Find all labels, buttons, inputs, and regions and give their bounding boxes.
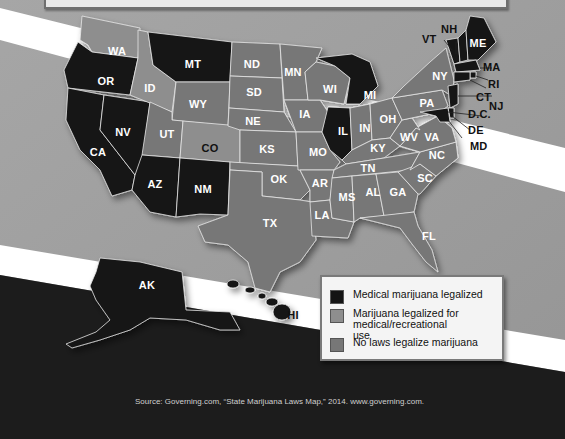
label-NC: NC bbox=[429, 149, 445, 161]
label-TX: TX bbox=[263, 217, 277, 229]
label-KY: KY bbox=[370, 142, 386, 154]
legend-label-medical: Medical marijuana legalized bbox=[353, 289, 493, 300]
label-MT: MT bbox=[185, 58, 201, 70]
legend-swatch-recreational bbox=[330, 309, 344, 323]
label-IL: IL bbox=[338, 125, 348, 137]
map-figure: WA OR CA NV ID MT WY UT CO AZ NM ND SD N… bbox=[0, 0, 565, 439]
label-AL: AL bbox=[365, 186, 380, 198]
legend: Medical marijuana legalized Marijuana le… bbox=[320, 275, 504, 361]
label-OK: OK bbox=[271, 173, 288, 185]
label-RI: RI bbox=[488, 78, 499, 90]
label-ME: ME bbox=[470, 37, 487, 49]
label-NY: NY bbox=[432, 70, 448, 82]
label-AK: AK bbox=[139, 279, 155, 291]
label-PA: PA bbox=[420, 97, 435, 109]
label-DC: D.C. bbox=[468, 108, 491, 120]
label-NH: NH bbox=[441, 23, 457, 35]
legend-label-none: No laws legalize marijuana bbox=[353, 337, 493, 348]
label-ND: ND bbox=[244, 58, 260, 70]
label-MA: MA bbox=[483, 61, 501, 73]
label-SC: SC bbox=[417, 172, 433, 184]
label-MS: MS bbox=[339, 191, 356, 203]
label-ID: ID bbox=[144, 82, 155, 94]
label-NE: NE bbox=[245, 115, 261, 127]
label-CO: CO bbox=[202, 142, 219, 154]
label-VT: VT bbox=[422, 33, 436, 45]
label-OR: OR bbox=[98, 75, 115, 87]
label-NJ: NJ bbox=[489, 100, 503, 112]
label-WA: WA bbox=[108, 45, 126, 57]
label-MI: MI bbox=[364, 89, 377, 101]
legend-item-none: No laws legalize marijuana bbox=[330, 337, 493, 352]
label-IA: IA bbox=[299, 108, 310, 120]
label-FL: FL bbox=[422, 230, 436, 242]
label-KS: KS bbox=[259, 143, 275, 155]
label-CA: CA bbox=[90, 146, 106, 158]
label-DE: DE bbox=[468, 124, 484, 136]
legend-swatch-medical bbox=[330, 290, 344, 304]
legend-item-medical: Medical marijuana legalized bbox=[330, 289, 493, 304]
label-MN: MN bbox=[284, 66, 302, 78]
label-MO: MO bbox=[309, 146, 327, 158]
label-UT: UT bbox=[159, 128, 174, 140]
label-HI: HI bbox=[287, 309, 298, 321]
label-WY: WY bbox=[189, 98, 207, 110]
label-SD: SD bbox=[246, 86, 262, 98]
label-OH: OH bbox=[380, 113, 397, 125]
map-background bbox=[0, 0, 565, 439]
label-LA: LA bbox=[314, 209, 329, 221]
label-VA: VA bbox=[425, 131, 440, 143]
label-WI: WI bbox=[323, 83, 337, 95]
source-citation: Source: Governing.com, “State Marijuana … bbox=[135, 397, 424, 406]
label-IN: IN bbox=[359, 122, 370, 134]
label-GA: GA bbox=[390, 186, 407, 198]
label-NV: NV bbox=[115, 126, 131, 138]
label-WV: WV bbox=[400, 131, 418, 143]
label-MD: MD bbox=[470, 140, 488, 152]
label-TN: TN bbox=[360, 162, 375, 174]
label-AR: AR bbox=[312, 177, 328, 189]
title-box bbox=[44, 0, 508, 9]
label-NM: NM bbox=[194, 183, 212, 195]
state-RI[interactable] bbox=[470, 72, 476, 78]
legend-swatch-none bbox=[330, 338, 344, 352]
label-AZ: AZ bbox=[147, 178, 162, 190]
state-NJ[interactable] bbox=[448, 84, 458, 108]
state-CT[interactable] bbox=[454, 72, 470, 82]
